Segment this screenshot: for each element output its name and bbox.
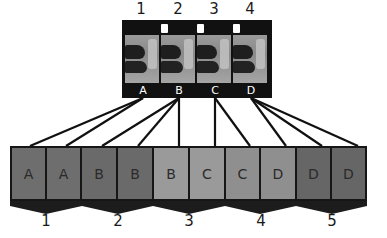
output-box-4: B (116, 146, 154, 201)
box-label: A (59, 166, 69, 182)
box-label: D (343, 166, 354, 182)
box-label: D (273, 166, 284, 182)
output-box-9: D (295, 146, 332, 201)
group-number-2: 2 (108, 212, 128, 230)
output-box-5: B (152, 146, 190, 201)
output-box-8: D (259, 146, 297, 201)
connector-lines (0, 0, 387, 238)
box-label: B (94, 166, 104, 182)
box-label: C (238, 166, 248, 182)
group-number-5: 5 (322, 212, 342, 230)
output-box-2: A (45, 146, 82, 201)
output-box-7: C (224, 146, 261, 201)
output-box-3: B (80, 146, 118, 201)
group-number-4: 4 (251, 212, 271, 230)
box-label: B (130, 166, 140, 182)
output-box-6: C (188, 146, 226, 201)
group-number-1: 1 (36, 212, 56, 230)
output-box-10: D (330, 146, 367, 201)
box-label: D (308, 166, 319, 182)
box-label: A (24, 166, 34, 182)
box-label: B (166, 166, 176, 182)
group-number-3: 3 (179, 212, 199, 230)
output-box-1: A (10, 146, 47, 201)
box-label: C (202, 166, 212, 182)
